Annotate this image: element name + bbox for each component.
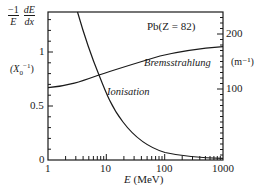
y-axis-right-unit: (m⁻¹) [231,57,254,67]
ionisation-curve [78,12,224,158]
y-tick-0-5: 0.5 [30,100,44,111]
y-tick-1: 1 [39,46,45,57]
chart-title: Pb(Z = 82) [147,21,195,32]
y-tick-right-100: 100 [226,83,243,94]
y-axis-left-unit: (X0−1) [10,63,34,77]
right-ticks [217,18,223,156]
y-tick-0: 0 [39,154,45,165]
unit-sub: 0 [19,69,23,77]
y-axis-left-label: −1 E dE dx [8,4,35,27]
y-tick-right-200: 200 [226,28,243,39]
x-axis-label: E (MeV) [124,174,163,185]
bremsstrahlung-label: Bremsstrahlung [144,58,211,69]
label-dx: dx [24,16,33,27]
x-tick-10: 10 [100,163,111,174]
x-tick-1: 1 [45,163,51,174]
ionisation-label: Ionisation [107,87,150,98]
unit-close: ) [30,63,33,74]
x-axis-unit: (MeV) [131,173,164,185]
left-ticks [48,20,53,150]
x-axis-var: E [124,173,131,185]
label-minus-one: −1 [8,4,19,15]
x-tick-1000: 1000 [212,163,234,174]
label-de: dE [24,4,35,15]
label-e: E [10,16,16,27]
